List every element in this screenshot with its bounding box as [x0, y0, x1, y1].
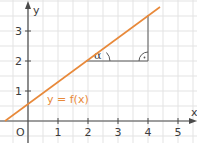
axes [0, 1, 197, 143]
x-tick-label: 4 [145, 126, 152, 139]
angle-alpha-arc [107, 53, 111, 62]
x-tick-label: 2 [85, 126, 92, 139]
y-tick-label: 1 [15, 85, 22, 98]
y-tick-label: 2 [15, 55, 22, 68]
y-axis-arrow-icon [25, 1, 31, 9]
function-label: y = f(x) [47, 93, 89, 106]
x-tick-label: 5 [175, 126, 182, 139]
right-angle-dot [144, 57, 146, 59]
ticks: 12345123 [15, 25, 182, 139]
x-tick-label: 1 [55, 126, 62, 139]
x-tick-label: 3 [115, 126, 122, 139]
coordinate-plot: 12345123 y x O α y = f(x) [0, 0, 197, 143]
x-axis-label: x [191, 106, 197, 119]
y-tick-label: 3 [15, 25, 22, 38]
origin-label: O [16, 126, 25, 139]
right-angle-arc [139, 52, 148, 61]
y-axis-label: y [33, 4, 40, 17]
